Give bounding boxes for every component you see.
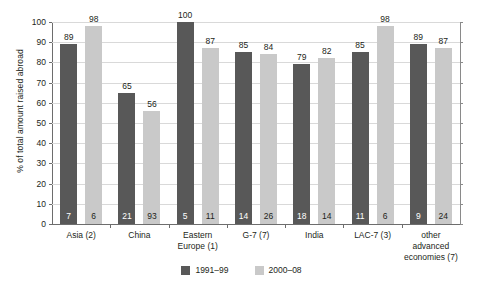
legend-label: 1991–99: [195, 265, 228, 275]
bar-value-label: 87: [205, 36, 214, 46]
bar-group: 8511986: [352, 22, 394, 224]
y-tick-mark-60: [49, 103, 52, 104]
y-tick-mark-right-40: [460, 143, 463, 144]
y-tick-label-80: 80: [37, 57, 46, 67]
bar: 986: [377, 26, 394, 224]
y-tick-mark-right-30: [460, 163, 463, 164]
y-tick-mark-90: [49, 42, 52, 43]
bar: 8724: [435, 48, 452, 224]
bar-inner-label: 18: [297, 211, 306, 221]
bar: 8214: [318, 58, 335, 224]
legend-item[interactable]: 1991–99: [181, 265, 228, 275]
bar-group: 8998724: [410, 22, 452, 224]
y-tick-label-0: 0: [41, 219, 46, 229]
bar-inner-label: 93: [147, 211, 156, 221]
y-tick-mark-right-80: [460, 62, 463, 63]
bar-value-label: 56: [147, 99, 156, 109]
bar-value-label: 98: [380, 14, 389, 24]
bar-value-label: 84: [264, 42, 273, 52]
x-axis-label: otheradvancedeconomies (7): [396, 230, 466, 263]
y-tick-mark-right-100: [460, 22, 463, 23]
legend-swatch-icon: [181, 266, 190, 275]
bar-group: 79188214: [293, 22, 335, 224]
gridline-0: [52, 224, 460, 225]
y-tick-mark-70: [49, 83, 52, 84]
x-tick-mark: [110, 224, 111, 228]
x-tick-mark: [402, 224, 403, 228]
bar: 8511: [352, 52, 369, 224]
bar-value-label: 85: [239, 40, 248, 50]
bar-group: 897986: [60, 22, 102, 224]
plot-area: 0102030405060708090100 89798665215693100…: [52, 22, 460, 224]
bar-value-label: 65: [122, 81, 131, 91]
x-tick-mark: [227, 224, 228, 228]
bar-inner-label: 21: [122, 211, 131, 221]
bar-value-label: 82: [322, 46, 331, 56]
bar: 8711: [202, 48, 219, 224]
bar-group: 10058711: [177, 22, 219, 224]
bar-value-label: 100: [178, 10, 192, 20]
bar: 986: [85, 26, 102, 224]
chart-legend: 1991–992000–08: [0, 265, 483, 275]
x-axis-label-line: economies (7): [396, 252, 466, 263]
y-tick-mark-0: [49, 224, 52, 225]
bar-group: 85148426: [235, 22, 277, 224]
legend-label: 2000–08: [269, 265, 302, 275]
y-tick-label-20: 20: [37, 179, 46, 189]
bar-value-label: 85: [355, 40, 364, 50]
y-axis-title: % of total amount raised abroad: [15, 11, 25, 211]
y-tick-label-50: 50: [37, 118, 46, 128]
y-tick-mark-right-10: [460, 204, 463, 205]
y-tick-label-40: 40: [37, 138, 46, 148]
y-tick-mark-right-0: [460, 224, 463, 225]
y-tick-label-30: 30: [37, 158, 46, 168]
bar-inner-label: 11: [356, 211, 365, 221]
bar-inner-label: 14: [239, 211, 248, 221]
bar-inner-label: 14: [322, 211, 331, 221]
x-axis-label-line: advanced: [396, 241, 466, 252]
bar-inner-label: 26: [264, 211, 273, 221]
bar: 1005: [177, 22, 194, 224]
bar-value-label: 79: [297, 52, 306, 62]
bar-group: 65215693: [118, 22, 160, 224]
bar: 6521: [118, 93, 135, 224]
bar: 8426: [260, 54, 277, 224]
bar-inner-label: 6: [91, 211, 96, 221]
y-tick-label-70: 70: [37, 78, 46, 88]
y-tick-mark-right-20: [460, 184, 463, 185]
x-tick-mark: [285, 224, 286, 228]
bar: 7918: [293, 64, 310, 224]
y-tick-mark-right-60: [460, 103, 463, 104]
x-axis-label-line: Europe (1): [163, 241, 233, 252]
bar-inner-label: 5: [183, 211, 188, 221]
bar: 897: [60, 44, 77, 224]
bar-value-label: 98: [89, 14, 98, 24]
y-tick-label-100: 100: [32, 17, 46, 27]
bar-value-label: 89: [414, 32, 423, 42]
y-tick-mark-80: [49, 62, 52, 63]
y-tick-label-60: 60: [37, 98, 46, 108]
bar: 8514: [235, 52, 252, 224]
x-tick-mark: [343, 224, 344, 228]
bar-inner-label: 7: [66, 211, 71, 221]
bar-chart: % of total amount raised abroad 01020304…: [0, 0, 483, 293]
y-tick-label-10: 10: [37, 199, 46, 209]
y-tick-label-90: 90: [37, 37, 46, 47]
y-tick-mark-40: [49, 143, 52, 144]
y-tick-mark-20: [49, 184, 52, 185]
y-tick-mark-right-70: [460, 83, 463, 84]
y-tick-mark-right-50: [460, 123, 463, 124]
x-axis-label-line: other: [396, 230, 466, 241]
bar-inner-label: 24: [439, 211, 448, 221]
bar-inner-label: 9: [416, 211, 421, 221]
bar: 5693: [143, 111, 160, 224]
bar-inner-label: 6: [383, 211, 388, 221]
bar-inner-label: 11: [206, 211, 215, 221]
legend-swatch-icon: [255, 266, 264, 275]
y-tick-mark-100: [49, 22, 52, 23]
y-tick-mark-30: [49, 163, 52, 164]
legend-item[interactable]: 2000–08: [255, 265, 302, 275]
bar-value-label: 89: [64, 32, 73, 42]
x-tick-mark: [169, 224, 170, 228]
bar-value-label: 87: [439, 36, 448, 46]
